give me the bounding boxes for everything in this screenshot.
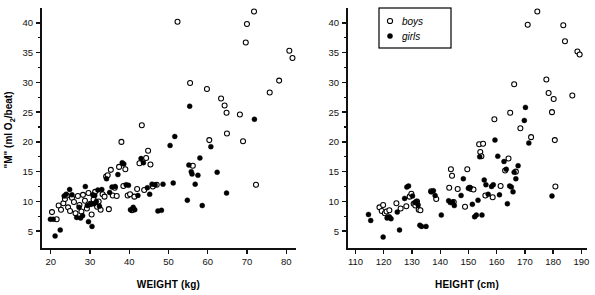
- data-point-girls: [215, 170, 220, 175]
- data-point-boys: [544, 77, 549, 82]
- data-point-girls: [168, 143, 173, 148]
- data-point-girls: [83, 184, 88, 189]
- x-axis-tick-labels-height: 110120130140150160170180190: [348, 256, 589, 267]
- data-point-girls: [145, 185, 150, 190]
- data-point-girls: [69, 192, 74, 197]
- data-point-girls: [504, 167, 509, 172]
- data-point-boys: [148, 162, 153, 167]
- data-point-boys: [552, 138, 557, 143]
- data-point-girls: [470, 202, 475, 207]
- data-point-boys: [465, 167, 470, 172]
- x-tick-label: 80: [281, 256, 292, 267]
- data-point-girls: [195, 173, 200, 178]
- data-point-boys: [287, 48, 292, 53]
- data-point-girls: [185, 198, 190, 203]
- height-plot-svg: 510152025303540 110120130140150160170180…: [295, 0, 595, 295]
- data-point-girls: [80, 213, 85, 218]
- data-point-girls: [495, 154, 500, 159]
- data-point-girls: [512, 170, 517, 175]
- data-point-boys: [549, 110, 554, 115]
- data-point-girls: [92, 193, 97, 198]
- data-point-boys: [188, 80, 193, 85]
- data-point-boys: [267, 90, 272, 95]
- data-point-boys: [253, 182, 258, 187]
- data-point-girls: [90, 224, 95, 229]
- y-tick-label: 10: [328, 196, 339, 207]
- data-point-boys: [562, 39, 567, 44]
- data-point-girls: [94, 199, 99, 204]
- data-point-girls: [67, 187, 72, 192]
- data-point-girls: [492, 138, 497, 143]
- y-axis-tick-labels-weight: 510152025303540: [22, 17, 33, 236]
- data-point-boys: [277, 78, 282, 83]
- data-point-girls: [439, 213, 444, 218]
- data-point-girls: [99, 187, 104, 192]
- data-point-boys: [450, 173, 455, 178]
- data-point-girls: [381, 235, 386, 240]
- data-point-girls: [452, 203, 457, 208]
- data-point-boys: [481, 141, 486, 146]
- y-tick-label: 40: [328, 17, 339, 28]
- data-point-girls: [224, 191, 229, 196]
- data-point-girls: [410, 194, 415, 199]
- x-tick-label: 150: [460, 256, 476, 267]
- y-tick-label: 35: [22, 47, 33, 58]
- legend-label-girls: girls: [402, 31, 420, 42]
- data-point-girls: [141, 160, 146, 165]
- data-point-boys: [447, 185, 452, 190]
- data-point-boys: [561, 23, 566, 28]
- x-tick-label: 120: [376, 256, 392, 267]
- x-tick-label: 50: [163, 256, 174, 267]
- data-point-boys: [102, 194, 107, 199]
- data-point-girls: [186, 163, 191, 168]
- data-point-girls: [468, 185, 473, 190]
- data-point-girls: [51, 217, 56, 222]
- data-point-girls: [153, 182, 158, 187]
- data-point-boys: [381, 202, 386, 207]
- data-point-girls: [419, 224, 424, 229]
- y-tick-label: 25: [22, 107, 33, 118]
- data-point-boys: [387, 208, 392, 213]
- data-point-boys: [237, 112, 242, 117]
- x-tick-label: 30: [85, 256, 96, 267]
- data-point-boys: [175, 19, 180, 24]
- legend-marker-boys-icon: [387, 18, 392, 23]
- data-point-girls: [190, 172, 195, 177]
- data-point-boys: [535, 9, 540, 14]
- y-tick-label: 20: [22, 136, 33, 147]
- data-point-girls: [64, 192, 69, 197]
- data-point-boys: [512, 82, 517, 87]
- data-point-girls: [172, 134, 177, 139]
- y-axis-title: "M" (ml O2/beat): [3, 92, 17, 169]
- data-point-boys: [241, 139, 246, 144]
- data-point-girls: [113, 184, 118, 189]
- y-tick-label: 15: [22, 166, 33, 177]
- data-point-girls: [501, 159, 506, 164]
- data-point-girls: [252, 117, 257, 122]
- y-tick-label: 15: [328, 166, 339, 177]
- legend-box: [379, 8, 451, 48]
- data-point-boys: [546, 91, 551, 96]
- data-point-boys: [551, 97, 556, 102]
- y-tick-label: 5: [334, 226, 339, 237]
- x-tick-label: 140: [432, 256, 448, 267]
- data-point-boys: [204, 86, 209, 91]
- data-point-boys: [224, 131, 229, 136]
- data-point-boys: [139, 123, 144, 128]
- panel-height: 510152025303540 110120130140150160170180…: [295, 0, 595, 295]
- y-tick-label: 25: [328, 107, 339, 118]
- data-point-girls: [406, 183, 411, 188]
- data-point-boys: [68, 208, 73, 213]
- data-point-boys: [553, 184, 558, 189]
- data-point-girls: [200, 203, 205, 208]
- data-point-girls: [132, 207, 137, 212]
- data-point-boys: [506, 156, 511, 161]
- data-point-girls: [486, 192, 491, 197]
- data-point-boys: [498, 183, 503, 188]
- data-point-boys: [529, 135, 534, 140]
- data-point-boys: [243, 40, 248, 45]
- data-point-girls: [402, 196, 407, 201]
- x-tick-label: 20: [46, 256, 57, 267]
- data-point-boys: [144, 155, 149, 160]
- data-point-girls: [461, 176, 466, 181]
